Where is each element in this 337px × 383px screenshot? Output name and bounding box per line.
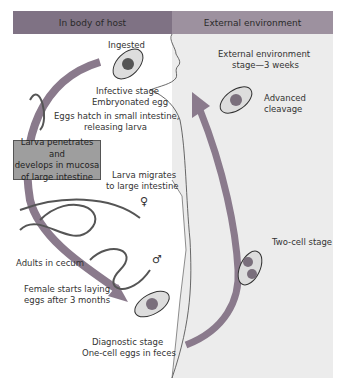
egg-one-cell-icon [131, 286, 174, 322]
label-two-cell: Two-cell stage [272, 237, 332, 248]
external-cycle-arrow [186, 110, 238, 345]
label-laying-1: Female starts laying [24, 284, 110, 295]
mucosa-box: Larva penetrates and develops in mucosa … [13, 140, 101, 180]
label-infective-2: Embryonated egg [92, 97, 168, 108]
label-advanced-2: cleavage [264, 104, 302, 115]
label-adults: Adults in cecum [16, 258, 84, 269]
label-diagnostic-1: Diagnostic stage [92, 337, 163, 348]
label-migrates-2: to large intestine [106, 181, 179, 192]
life-cycle-diagram: In body of host External environment Ing… [0, 0, 337, 383]
label-ingested: Ingested [108, 40, 145, 51]
label-hatch-2: releasing larva [84, 122, 147, 133]
egg-advanced-icon [216, 81, 257, 118]
label-hatch-1: Eggs hatch in small intestine, [54, 111, 180, 122]
label-laying-2: eggs after 3 months [24, 295, 110, 306]
label-advanced-1: Advanced [264, 93, 306, 104]
male-symbol: ♂ [152, 254, 162, 265]
female-symbol: ♀ [140, 196, 148, 207]
label-migrates-1: Larva migrates [112, 170, 176, 181]
label-ext-stage-1: External environment [218, 49, 310, 60]
label-infective-1: Infective stage [96, 86, 159, 97]
label-diagnostic-2: One-cell eggs in feces [82, 348, 176, 359]
label-ext-stage-2: stage—3 weeks [232, 60, 299, 71]
